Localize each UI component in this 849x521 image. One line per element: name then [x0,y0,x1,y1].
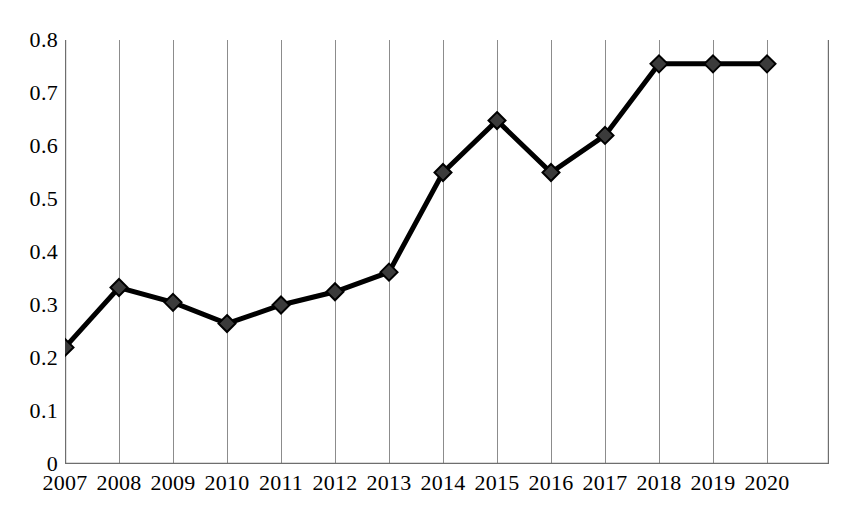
vertical-gridlines [66,40,768,464]
series-markers [65,55,776,356]
y-tick-label: 0.7 [0,82,58,104]
y-tick-label: 0.8 [0,29,58,51]
axis-lines [65,40,829,464]
y-tick-label: 0.1 [0,400,58,422]
y-axis-tick-labels: 00.10.20.30.40.50.60.70.8 [0,0,58,521]
data-point-marker [219,315,236,332]
data-point-marker [327,283,344,300]
data-point-marker [759,55,776,72]
data-point-marker [165,294,182,311]
line-chart: 00.10.20.30.40.50.60.70.8 20072008200920… [0,0,849,521]
y-tick-label: 0.5 [0,188,58,210]
chart-canvas [65,40,829,464]
x-axis-tick-labels: 2007200820092010201120122013201420152016… [0,470,849,510]
y-tick-label: 0.3 [0,294,58,316]
x-tick-label: 2020 [722,470,812,496]
plot-area [65,40,829,464]
y-tick-label: 0.4 [0,241,58,263]
data-point-marker [273,297,290,314]
y-tick-label: 0.6 [0,135,58,157]
data-point-marker [705,55,722,72]
y-tick-label: 0.2 [0,347,58,369]
